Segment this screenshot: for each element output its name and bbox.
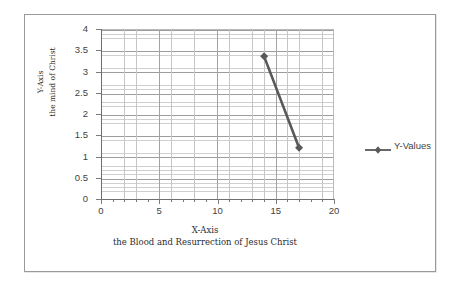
- legend[interactable]: Y-Values: [365, 141, 431, 151]
- x-axis-tick: [194, 199, 195, 202]
- x-axis-tick-label: 10: [212, 206, 223, 216]
- x-axis-tick: [136, 199, 137, 202]
- chart-frame[interactable]: 00.511.522.533.54 05101520 Y-Axis the mi…: [24, 14, 436, 272]
- y-axis-tick: [96, 135, 101, 136]
- series-line: [264, 56, 299, 147]
- plot-area[interactable]: [101, 29, 334, 199]
- y-axis-tick-label: 1: [48, 152, 88, 162]
- y-axis-tick: [96, 50, 101, 51]
- series-plot: [101, 30, 334, 200]
- x-axis-tick: [322, 199, 323, 202]
- y-axis-tick: [96, 114, 101, 115]
- y-axis-title: Y-Axis the mind of Christ: [35, 22, 59, 142]
- x-axis-tick: [124, 199, 125, 202]
- x-axis-tick-label: 0: [98, 206, 103, 216]
- x-axis-tick: [241, 199, 242, 202]
- y-axis-tick: [96, 93, 101, 94]
- x-axis-tick: [113, 199, 114, 202]
- x-axis-tick: [148, 199, 149, 202]
- x-axis-tick: [206, 199, 207, 202]
- x-axis-tick: [264, 199, 265, 202]
- x-axis-title-line2: the Blood and Resurrection of Jesus Chri…: [65, 236, 345, 248]
- x-axis-tick: [311, 199, 312, 202]
- legend-marker-diamond-icon: [365, 141, 391, 151]
- x-axis-tick: [101, 199, 102, 204]
- x-axis-tick-label: 15: [270, 206, 281, 216]
- y-axis-tick: [96, 72, 101, 73]
- x-axis-tick: [171, 199, 172, 202]
- x-axis-title: X-Axis the Blood and Resurrection of Jes…: [65, 224, 345, 249]
- legend-label: Y-Values: [394, 141, 431, 151]
- x-axis-tick-label: 5: [157, 206, 162, 216]
- x-axis-tick-label: 20: [329, 206, 340, 216]
- x-axis-tick: [229, 199, 230, 202]
- data-point-marker[interactable]: [295, 144, 303, 152]
- x-axis-title-line1: X-Axis: [65, 224, 345, 236]
- y-axis-title-line1: Y-Axis: [35, 22, 47, 142]
- y-axis-tick: [96, 178, 101, 179]
- x-axis-tick: [183, 199, 184, 202]
- x-axis-tick: [252, 199, 253, 202]
- x-axis-tick: [276, 199, 277, 204]
- y-axis-title-line2: the mind of Christ: [47, 22, 59, 142]
- y-axis-tick-label: 0: [48, 194, 88, 204]
- series-y-values[interactable]: [260, 52, 303, 151]
- x-axis-tick: [218, 199, 219, 204]
- x-axis-tick: [159, 199, 160, 204]
- y-axis-line: [101, 29, 102, 199]
- data-point-marker[interactable]: [260, 52, 268, 60]
- x-axis-tick: [299, 199, 300, 202]
- y-axis-tick: [96, 29, 101, 30]
- y-axis-tick-label: 0.5: [48, 173, 88, 183]
- x-axis-tick: [287, 199, 288, 202]
- x-axis-tick: [334, 199, 335, 204]
- y-axis-tick: [96, 157, 101, 158]
